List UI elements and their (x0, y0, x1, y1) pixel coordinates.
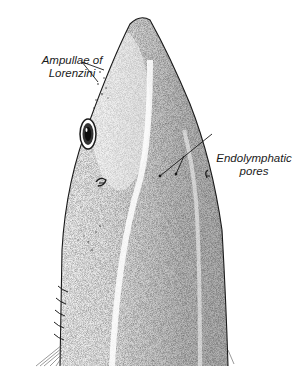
ampullae-label-line2: Lorenzini (22, 67, 122, 80)
pectoral-fin-icon (36, 345, 62, 366)
ampullae-label: Ampullae of Lorenzini (22, 54, 122, 80)
endolymphatic-label-line1: Endolymphatic (204, 152, 304, 165)
ampullae-label-line1: Ampullae of (22, 54, 122, 67)
eye-icon (80, 119, 96, 149)
pectoral-fin-right-icon (228, 350, 234, 364)
endolymphatic-label-line2: pores (204, 165, 304, 178)
endolymphatic-label: Endolymphatic pores (204, 152, 304, 178)
